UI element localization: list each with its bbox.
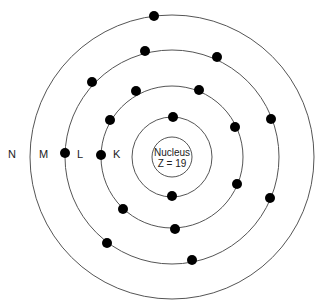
- electron: [60, 148, 70, 158]
- electron: [87, 77, 97, 87]
- electron: [232, 179, 242, 189]
- electron: [105, 115, 115, 125]
- shell-label-n: N: [8, 148, 16, 160]
- electron: [140, 46, 150, 56]
- electron: [118, 204, 128, 214]
- electron: [194, 85, 204, 95]
- electron: [149, 11, 159, 21]
- shell-label-m: M: [39, 148, 48, 160]
- atom-diagram: N M L K Nucleus Z = 19: [0, 0, 319, 303]
- shell-label-l: L: [77, 148, 83, 160]
- nucleus-label: Nucleus Z = 19: [147, 147, 197, 169]
- electron: [212, 52, 222, 62]
- electron: [96, 150, 106, 160]
- electron: [167, 191, 177, 201]
- nucleus-title: Nucleus: [147, 147, 197, 158]
- electron: [265, 193, 275, 203]
- electron: [187, 255, 197, 265]
- electron: [266, 114, 276, 124]
- shell-label-k: K: [113, 148, 120, 160]
- electron: [131, 86, 141, 96]
- electron: [168, 112, 178, 122]
- electron: [170, 224, 180, 234]
- nucleus-charge: Z = 19: [147, 158, 197, 169]
- electron: [102, 238, 112, 248]
- electron: [230, 122, 240, 132]
